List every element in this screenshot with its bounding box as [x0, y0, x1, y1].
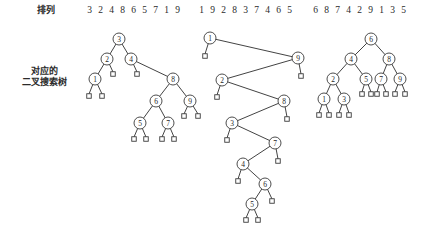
tree-edge	[210, 38, 298, 58]
tree-node-label: 4	[129, 55, 133, 64]
tree-node-label: 2	[105, 55, 109, 64]
external-null-node	[132, 137, 137, 142]
external-null-node	[347, 113, 352, 118]
tree-node-label: 7	[379, 75, 383, 84]
external-null-node	[203, 54, 208, 59]
external-null-node	[299, 74, 304, 79]
external-null-node	[369, 92, 374, 97]
tree-edge	[222, 58, 298, 80]
tree-node-label: 9	[398, 75, 402, 84]
bst-figure: 排列 对应的 二叉搜索树 324865719 192837465 6874291…	[0, 0, 421, 226]
external-null-node	[375, 92, 380, 97]
external-null-node	[225, 138, 230, 143]
external-null-node	[160, 137, 165, 142]
external-null-node	[87, 94, 92, 99]
tree-node-label: 6	[154, 97, 158, 106]
tree-node-label: 1	[322, 95, 326, 104]
tree-node-label: 8	[387, 55, 391, 64]
external-null-node	[111, 72, 116, 77]
external-null-node	[337, 113, 342, 118]
tree-node-label: 6	[369, 35, 373, 44]
tree-node-label: 5	[138, 119, 142, 128]
external-null-node	[276, 159, 281, 164]
tree-node-label: 8	[171, 75, 175, 84]
external-null-node	[285, 117, 290, 122]
tree-node-label: 3	[230, 119, 234, 128]
external-null-node	[196, 114, 201, 119]
tree-node-label: 2	[331, 75, 335, 84]
external-null-node	[360, 92, 365, 97]
external-null-node	[144, 137, 149, 142]
external-null-node	[100, 94, 105, 99]
external-null-node	[270, 199, 275, 204]
tree-node-label: 5	[250, 200, 254, 209]
bst-3: 648257913	[317, 33, 408, 117]
external-null-node	[317, 113, 322, 118]
tree-node-label: 6	[263, 180, 267, 189]
tree-node-label: 2	[220, 76, 224, 85]
bst-1: 324186957	[87, 33, 201, 141]
external-null-node	[327, 113, 332, 118]
external-null-node	[182, 114, 187, 119]
external-null-node	[384, 92, 389, 97]
tree-edge	[222, 80, 284, 101]
tree-edge	[232, 123, 275, 143]
tree-node-label: 3	[117, 35, 121, 44]
tree-node-label: 8	[282, 97, 286, 106]
bst-2: 192837465	[203, 32, 304, 222]
external-null-node	[393, 92, 398, 97]
tree-edge	[232, 101, 284, 123]
tree-node-label: 4	[241, 160, 245, 169]
tree-node-label: 7	[273, 139, 277, 148]
external-null-node	[172, 137, 177, 142]
tree-node-label: 3	[342, 95, 346, 104]
external-null-node	[135, 72, 140, 77]
tree-node-label: 1	[208, 34, 212, 43]
tree-node-label: 5	[364, 75, 368, 84]
external-null-node	[256, 218, 261, 223]
external-null-node	[215, 95, 220, 100]
tree-node-label: 4	[349, 55, 353, 64]
tree-node-label: 1	[93, 75, 97, 84]
external-null-node	[244, 218, 249, 223]
tree-node-label: 9	[188, 97, 192, 106]
binary-search-trees-canvas: 324186957192837465648257913	[0, 0, 421, 226]
external-null-node	[236, 179, 241, 184]
tree-node-label: 9	[296, 54, 300, 63]
external-null-node	[403, 92, 408, 97]
tree-node-label: 7	[166, 119, 170, 128]
